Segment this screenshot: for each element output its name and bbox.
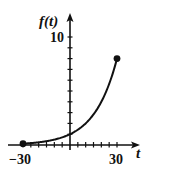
x-tick-label-30: 30 xyxy=(109,152,123,167)
x-axis-label: t xyxy=(136,145,141,161)
x-tick-label-neg30: −30 xyxy=(9,152,31,167)
y-tick-label-10: 10 xyxy=(50,30,64,45)
exponential-chart: f(t) 10 −30 30 t xyxy=(0,0,195,172)
endpoint-dot xyxy=(20,140,27,147)
y-axis-label: f(t) xyxy=(39,13,58,30)
endpoint-dot xyxy=(114,55,121,62)
